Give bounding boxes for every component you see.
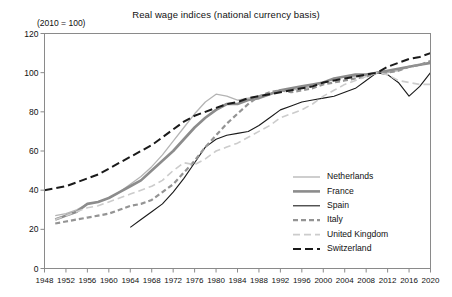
y-tick-label: 60 [29,146,39,156]
series-line-switzerland [45,53,431,190]
legend-label-netherlands: Netherlands [327,171,373,181]
x-tick-label: 1968 [143,276,161,285]
series-line-netherlands [55,63,430,216]
legend-label-spain: Spain [327,200,349,210]
x-tick-label: 2000 [314,276,332,285]
y-tick-label: 100 [24,68,38,78]
x-tick-label: 1948 [36,276,54,285]
y-tick-label: 80 [29,107,39,117]
legend-label-france: France [327,186,354,196]
y-tick-label: 20 [29,224,39,234]
y-tick-label: 120 [24,29,38,39]
y-tick-label: 40 [29,185,39,195]
y-axis-ticks: 020406080100120 [24,29,44,274]
chart-container: Real wage indices (national currency bas… [0,0,452,297]
chart-legend: NetherlandsFranceSpainItalyUnited Kingdo… [293,171,388,253]
x-tick-label: 2012 [379,276,397,285]
x-tick-label: 1952 [57,276,75,285]
x-tick-label: 2004 [336,276,354,285]
x-tick-label: 1984 [229,276,247,285]
y-tick-label: 0 [34,264,39,274]
legend-label-italy: Italy [327,214,343,224]
series-line-france [55,63,430,220]
x-tick-label: 1980 [207,276,225,285]
x-tick-label: 1988 [250,276,268,285]
data-series-group [45,53,431,227]
legend-label-switzerland: Switzerland [327,243,372,253]
x-tick-label: 1996 [293,276,311,285]
x-tick-label: 2016 [400,276,418,285]
x-tick-label: 2008 [357,276,375,285]
x-tick-label: 1964 [121,276,139,285]
x-axis-ticks: 1948195219561960196419681972197619801984… [36,269,440,285]
x-tick-label: 1976 [186,276,204,285]
chart-plot: 020406080100120 194819521956196019641968… [0,0,452,297]
series-line-italy [55,61,430,224]
x-tick-label: 1992 [271,276,289,285]
x-tick-label: 1972 [164,276,182,285]
x-tick-label: 2020 [422,276,440,285]
x-tick-label: 1960 [100,276,118,285]
x-tick-label: 1956 [78,276,96,285]
legend-label-united-kingdom: United Kingdom [327,229,388,239]
